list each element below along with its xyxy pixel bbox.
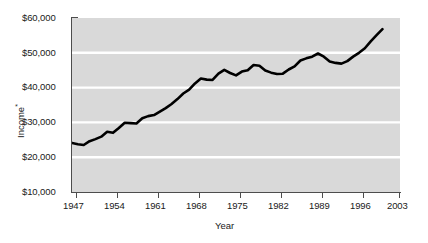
x-tick-mark — [322, 193, 323, 198]
x-tick-label-1961: 1961 — [145, 200, 166, 211]
x-tick-label-1954: 1954 — [104, 200, 125, 211]
y-tick-label-40000: $40,000 — [22, 81, 56, 92]
x-tick-mark — [76, 193, 77, 198]
x-tick-label-1968: 1968 — [186, 200, 207, 211]
x-tick-mark — [158, 193, 159, 198]
x-tick-label-2003: 2003 — [387, 200, 408, 211]
y-tick-label-10000: $10,000 — [22, 186, 56, 197]
plot-background — [72, 18, 400, 192]
x-tick-mark — [281, 193, 282, 198]
y-tick-label-60000: $60,000 — [22, 12, 56, 23]
y-axis-title-base: Income — [15, 107, 26, 138]
y-tick-label-50000: $50,000 — [22, 47, 56, 58]
x-tick-mark — [399, 193, 400, 198]
y-tick-label-30000: $30,000 — [22, 116, 56, 127]
x-tick-label-1975: 1975 — [227, 200, 248, 211]
x-tick-label-1982: 1982 — [268, 200, 289, 211]
x-tick-label-1996: 1996 — [350, 200, 371, 211]
y-axis-line — [71, 17, 72, 193]
x-tick-mark — [199, 193, 200, 198]
x-tick-mark — [240, 193, 241, 198]
y-axis-top-cap — [71, 17, 78, 18]
y-tick-label-20000: $20,000 — [22, 151, 56, 162]
x-axis-line — [71, 192, 401, 193]
x-tick-mark — [363, 193, 364, 198]
x-tick-label-1947: 1947 — [63, 200, 84, 211]
x-axis-title: Year — [215, 220, 234, 231]
chart-figure: $60,000 $50,000 $40,000 $30,000 $20,000 … — [0, 0, 428, 243]
y-axis-title-footnote-marker: * — [14, 104, 21, 107]
x-tick-mark — [117, 193, 118, 198]
x-tick-label-1989: 1989 — [309, 200, 330, 211]
plot-area — [72, 18, 400, 192]
chart-svg — [72, 18, 400, 192]
y-axis-title: Income* — [14, 104, 26, 138]
